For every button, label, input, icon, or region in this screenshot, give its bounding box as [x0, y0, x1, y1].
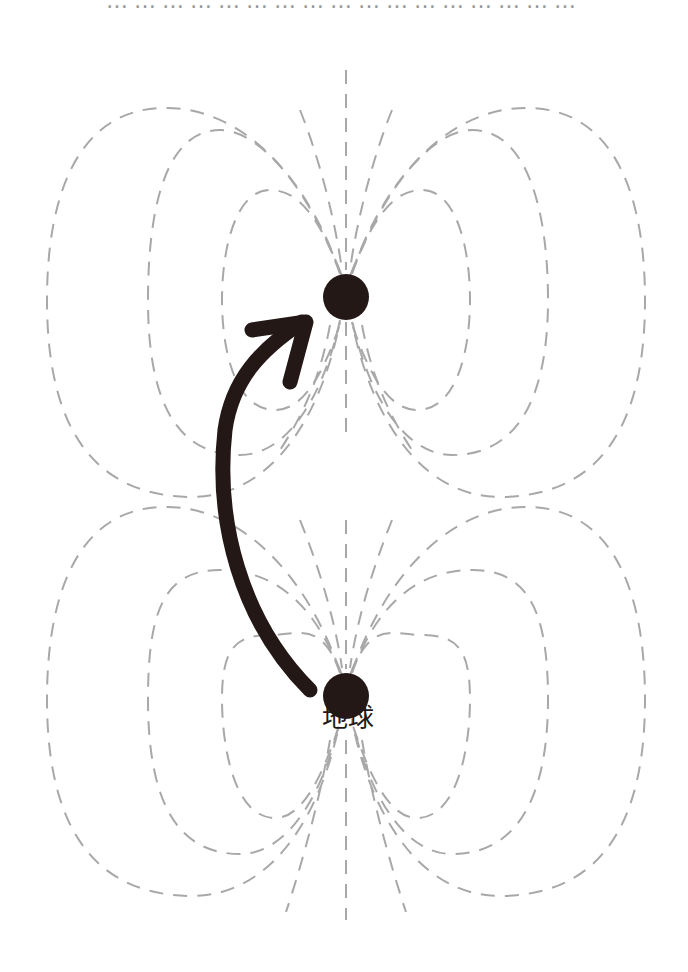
earth-label: 地球: [322, 705, 374, 731]
field-lines-svg: [0, 0, 688, 972]
curved-arrow-icon: [223, 322, 310, 690]
upper-body-dot: [323, 274, 369, 320]
dipole-diagram: ……………………………………………: [0, 0, 688, 972]
top-caption-cut: ……………………………………………: [0, 0, 688, 13]
